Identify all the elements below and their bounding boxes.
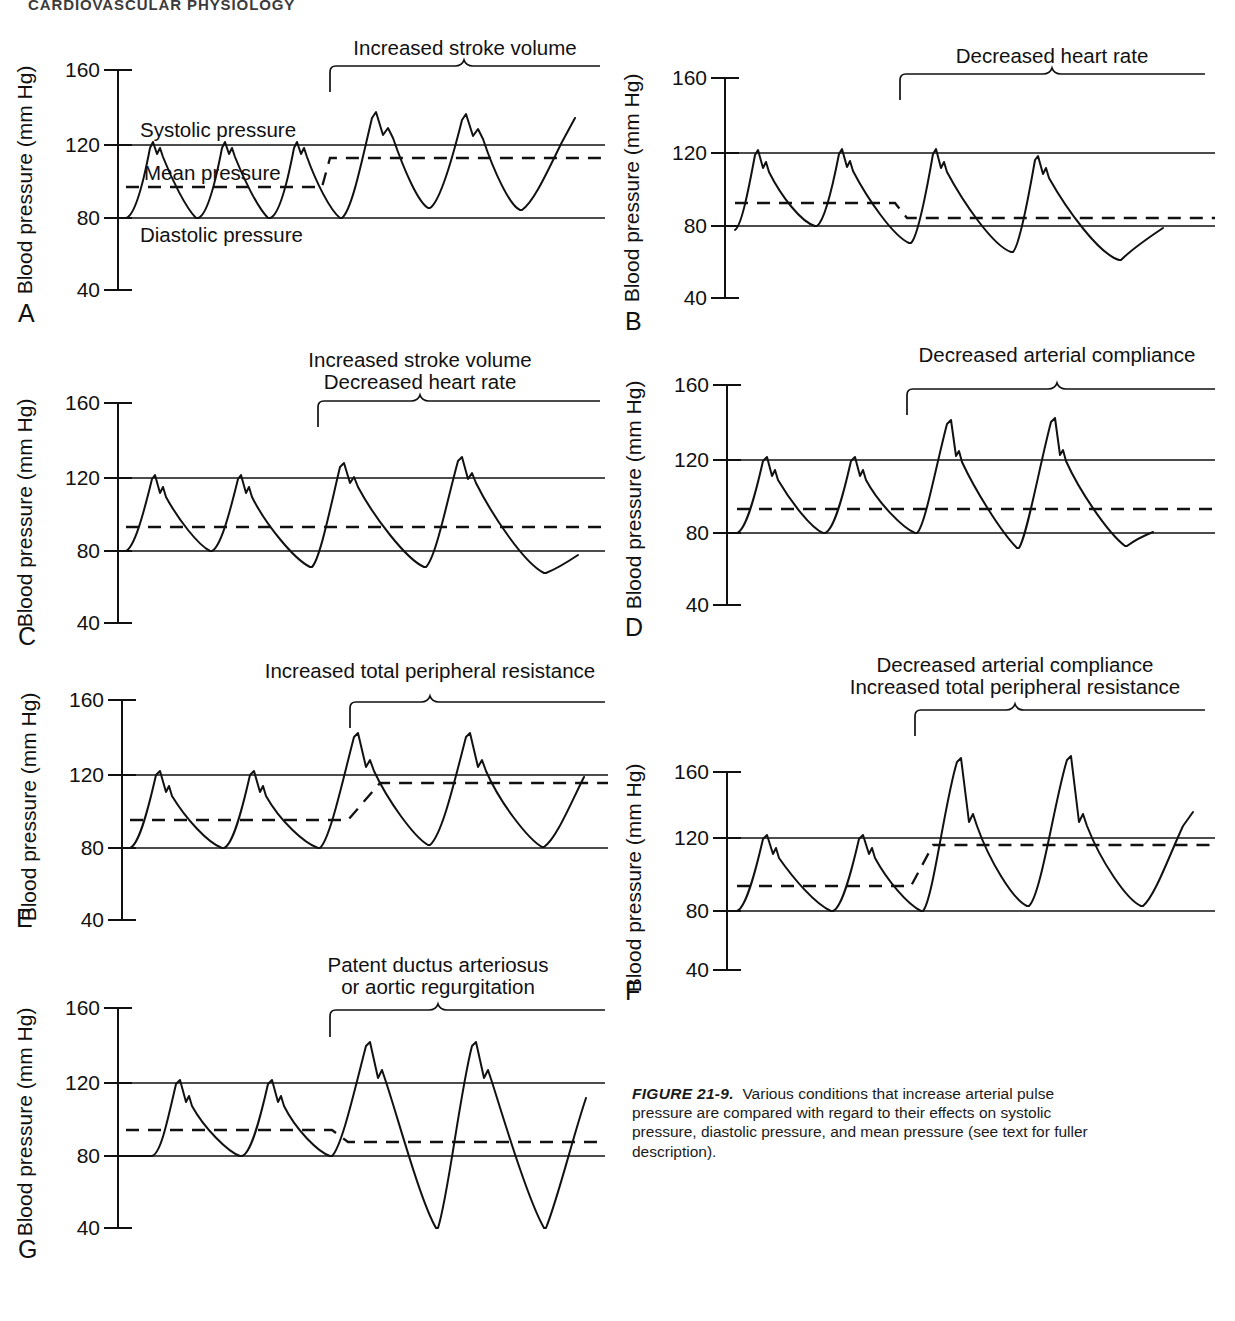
panel-F-title-line2: Increased total peripheral resistance (850, 675, 1180, 698)
panel-F-axis: 160 120 80 40 Blood pressure (mm Hg) F (622, 760, 741, 1005)
panel-C-axis: 160 120 80 40 Blood pressure (mm Hg) C (13, 391, 132, 650)
pressure-waveform (737, 418, 1153, 548)
tick-40: 40 (686, 593, 709, 616)
tick-80: 80 (81, 836, 104, 859)
panel-G-title-brace: Patent ductus arteriosus or aortic regur… (327, 953, 605, 1037)
tick-160: 160 (672, 66, 707, 89)
tick-80: 80 (684, 214, 707, 237)
panel-F-title-line1: Decreased arterial compliance (877, 653, 1154, 676)
tick-80: 80 (686, 899, 709, 922)
panel-D: Decreased arterial compliance 160 120 80… (615, 340, 1235, 640)
panel-E-label: E (16, 904, 33, 932)
panel-G-axis: 160 120 80 40 Blood pressure (mm Hg) G (13, 996, 132, 1263)
panel-F: Decreased arterial compliance Increased … (615, 650, 1235, 970)
panel-C-title-line2: Decreased heart rate (324, 370, 517, 393)
panel-B-axis: 160 120 80 40 Blood pressure (mm Hg) B (620, 66, 739, 335)
tick-120: 120 (674, 448, 709, 471)
pressure-waveform (126, 1042, 586, 1228)
panel-D-label: D (625, 613, 643, 641)
panel-E-axis: 160 120 80 40 Blood pressure (mm Hg) E (16, 688, 136, 932)
y-axis-label: Blood pressure (mm Hg) (620, 74, 643, 303)
panel-A-label: A (18, 299, 35, 327)
panel-E-title-brace: Increased total peripheral resistance (265, 659, 605, 728)
tick-40: 40 (686, 958, 709, 981)
tick-160: 160 (674, 760, 709, 783)
y-axis-label: Blood pressure (mm Hg) (13, 1008, 36, 1237)
panel-A-axis: 160 120 80 40 Blood pressure (mm Hg) A (13, 58, 132, 327)
panel-B: Decreased heart rate 160 120 80 40 Blood… (615, 40, 1235, 330)
panel-C: Increased stroke volume Decreased heart … (0, 345, 620, 645)
tick-160: 160 (69, 688, 104, 711)
pressure-waveform (126, 457, 578, 573)
tick-120: 120 (69, 763, 104, 786)
panel-C-title-line1: Increased stroke volume (308, 348, 531, 371)
panel-D-title: Decreased arterial compliance (919, 343, 1196, 366)
pressure-waveform (737, 756, 1193, 911)
y-axis-label: Blood pressure (mm Hg) (17, 693, 40, 922)
y-axis-label: Blood pressure (mm Hg) (13, 399, 36, 628)
tick-120: 120 (65, 133, 100, 156)
panel-A-title-brace: Increased stroke volume (330, 36, 600, 92)
tick-40: 40 (77, 278, 100, 301)
tick-160: 160 (65, 391, 100, 414)
panel-D-title-brace: Decreased arterial compliance (907, 343, 1215, 415)
tick-80: 80 (686, 521, 709, 544)
tick-80: 80 (77, 206, 100, 229)
panel-G-label: G (18, 1235, 37, 1263)
panel-B-title: Decreased heart rate (956, 44, 1149, 67)
panel-C-title-brace: Increased stroke volume Decreased heart … (308, 348, 600, 427)
panel-E: Increased total peripheral resistance 16… (0, 655, 620, 945)
y-axis-label: Blood pressure (mm Hg) (622, 381, 645, 610)
mean-pressure-line (130, 783, 608, 820)
figure-caption: FIGURE 21-9. Various conditions that inc… (632, 1084, 1102, 1161)
panel-F-label: F (625, 977, 640, 1005)
panel-E-title: Increased total peripheral resistance (265, 659, 595, 682)
panel-G-title-line2: or aortic regurgitation (341, 975, 535, 998)
panel-B-label: B (625, 307, 642, 335)
panel-G-title-line1: Patent ductus arteriosus (327, 953, 548, 976)
tick-120: 120 (65, 466, 100, 489)
mean-pressure-line (126, 1130, 605, 1142)
panel-A-inline-annotations: Systolic pressure Mean pressure Diastoli… (140, 118, 303, 246)
y-axis-label: Blood pressure (mm Hg) (13, 66, 36, 295)
tick-40: 40 (684, 286, 707, 309)
pressure-waveform (130, 733, 584, 848)
tick-160: 160 (65, 996, 100, 1019)
tick-120: 120 (672, 141, 707, 164)
tick-80: 80 (77, 539, 100, 562)
annotation-systolic: Systolic pressure (140, 118, 296, 141)
y-axis-label: Blood pressure (mm Hg) (622, 764, 645, 993)
mean-pressure-line (737, 845, 1215, 886)
tick-40: 40 (81, 908, 104, 931)
tick-40: 40 (77, 1216, 100, 1239)
panel-F-title-brace: Decreased arterial compliance Increased … (850, 653, 1205, 736)
tick-160: 160 (65, 58, 100, 81)
tick-80: 80 (77, 1144, 100, 1167)
tick-160: 160 (674, 373, 709, 396)
annotation-mean: Mean pressure (144, 161, 281, 184)
tick-120: 120 (674, 826, 709, 849)
pressure-waveform (735, 149, 1163, 260)
tick-120: 120 (65, 1071, 100, 1094)
panel-D-axis: 160 120 80 40 Blood pressure (mm Hg) D (622, 373, 741, 641)
running-head: CARDIOVASCULAR PHYSIOLOGY (28, 0, 588, 12)
tick-40: 40 (77, 611, 100, 634)
panel-B-title-brace: Decreased heart rate (900, 44, 1205, 100)
figure-number: FIGURE 21-9. (632, 1085, 734, 1102)
annotation-diastolic: Diastolic pressure (140, 223, 303, 246)
panel-G: Patent ductus arteriosus or aortic regur… (0, 950, 620, 1270)
panel-A-title: Increased stroke volume (353, 36, 576, 59)
panel-A: Increased stroke volume 160 120 80 40 Bl… (0, 30, 620, 330)
panel-C-label: C (18, 622, 36, 650)
